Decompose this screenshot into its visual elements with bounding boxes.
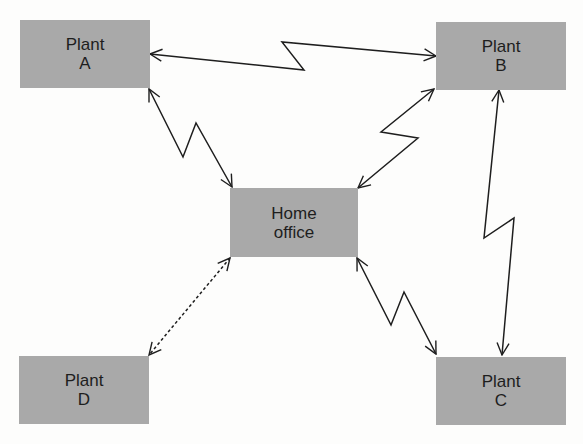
node-home-office: Home office (230, 188, 358, 257)
link-plant-a-home-office (149, 89, 232, 187)
node-plant-b: Plant B (436, 22, 566, 90)
node-label: A (79, 54, 90, 73)
network-diagram: Plant A Plant B Home office Plant C Plan… (0, 0, 583, 444)
node-label: Plant (482, 372, 521, 391)
link-plant-b-plant-c (484, 90, 514, 355)
node-label: Plant (66, 35, 105, 54)
node-plant-a: Plant A (20, 20, 150, 88)
node-label: Plant (482, 37, 521, 56)
node-label: C (495, 391, 507, 410)
link-home-office-plant-c (357, 258, 436, 354)
link-plant-a-plant-b (150, 42, 436, 70)
node-plant-c: Plant C (436, 357, 566, 425)
node-label: Plant (65, 371, 104, 390)
node-label: D (78, 390, 90, 409)
node-plant-d: Plant D (19, 356, 149, 424)
link-home-office-plant-b (358, 89, 434, 188)
node-label: B (495, 56, 506, 75)
node-label: office (274, 223, 314, 242)
link-home-office-plant-d (149, 258, 230, 355)
node-label: Home (271, 204, 316, 223)
